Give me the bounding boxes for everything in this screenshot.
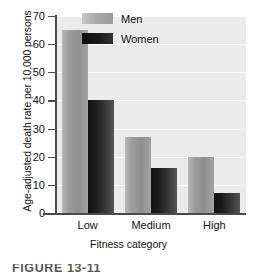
bar-men-medium (125, 137, 151, 213)
y-tick-mark (48, 100, 55, 101)
bar-women-medium (151, 168, 177, 213)
y-tick-mark (48, 185, 55, 186)
x-tick-label-high: High (203, 219, 226, 231)
y-tick-label: 70 (1, 10, 45, 22)
legend-swatch-women (82, 33, 113, 44)
bar-chart-figure: Age-adjusted death rate per 10,000 perso… (0, 0, 257, 275)
y-tick-mark (48, 16, 55, 17)
legend-label-women: Women (121, 33, 159, 45)
y-tick-label: 20 (1, 151, 45, 163)
y-tick-mark (48, 157, 55, 158)
y-tick-label: 30 (1, 123, 45, 135)
x-axis-line (43, 213, 246, 215)
x-axis-title: Fitness category (0, 238, 257, 250)
x-tick-label-low: Low (78, 219, 98, 231)
y-axis-tick-labels: 010203040506070 (0, 0, 45, 275)
legend-swatch-men (82, 13, 113, 24)
figure-caption: FIGURE 13-11 (12, 264, 212, 275)
y-tick-mark (48, 129, 55, 130)
y-axis-line (55, 15, 57, 214)
y-tick-label: 50 (1, 66, 45, 78)
bar-women-high (214, 193, 240, 213)
legend-label-men: Men (121, 13, 142, 25)
y-tick-mark (48, 72, 55, 73)
y-tick-label: 10 (1, 179, 45, 191)
legend-item-men: Men (82, 10, 159, 27)
bar-women-low (88, 100, 114, 213)
y-tick-label: 40 (1, 94, 45, 106)
x-tick-label-medium: Medium (131, 219, 170, 231)
y-tick-mark (48, 44, 55, 45)
bar-men-low (62, 30, 88, 213)
y-tick-label: 0 (1, 207, 45, 219)
bar-men-high (188, 157, 214, 213)
x-axis-tick-labels: LowMediumHigh (56, 219, 246, 235)
chart-legend: MenWomen (82, 10, 159, 50)
y-tick-label: 60 (1, 38, 45, 50)
figure-caption-text: FIGURE 13-11 (12, 264, 212, 275)
legend-item-women: Women (82, 30, 159, 47)
